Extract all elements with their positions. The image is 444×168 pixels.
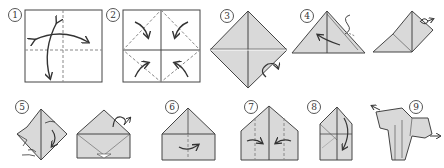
step-9	[372, 106, 440, 160]
step-number-6: 6	[165, 100, 179, 114]
step-number-3: 3	[220, 9, 234, 23]
step-3	[210, 11, 287, 88]
step-number-8: 8	[307, 100, 321, 114]
step-7	[241, 106, 298, 160]
diagram-canvas	[0, 0, 444, 168]
step-number-2: 2	[106, 8, 120, 22]
step-5b	[77, 110, 130, 158]
step-number-4: 4	[300, 9, 314, 23]
origami-diagram: 1 2 3 4 5 6 7 8 9	[0, 0, 444, 168]
step-2	[123, 10, 200, 82]
step-number-9: 9	[409, 100, 423, 114]
step-number-5: 5	[15, 100, 29, 114]
step-6	[162, 108, 215, 160]
step-1	[25, 10, 102, 82]
step-number-7: 7	[244, 100, 258, 114]
step-8	[320, 107, 352, 160]
step-5	[17, 109, 67, 160]
step-4b	[373, 11, 433, 52]
step-number-1: 1	[8, 8, 22, 22]
